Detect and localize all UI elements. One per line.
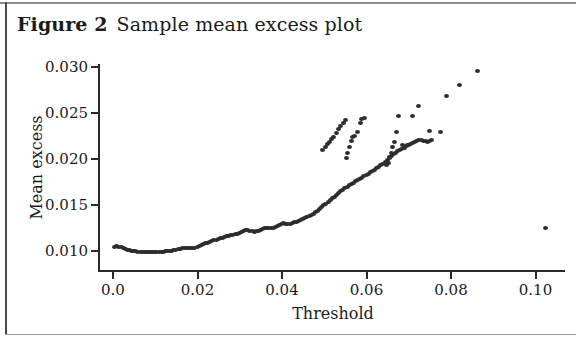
scatter-data-layer (0, 0, 576, 341)
data-point (362, 116, 367, 120)
figure-container: Figure 2Sample mean excess plot 0.0100.0… (0, 0, 576, 341)
data-point (392, 140, 397, 144)
data-point (343, 118, 348, 122)
data-point (389, 151, 394, 155)
plot-area: 0.0100.0150.0200.0250.030 0.00.020.040.0… (0, 0, 576, 341)
data-point (358, 121, 363, 125)
data-point (427, 129, 432, 133)
data-point (347, 145, 352, 149)
data-point (331, 135, 336, 139)
data-point (349, 139, 354, 143)
data-point (355, 130, 360, 134)
data-point (429, 138, 434, 142)
data-point (444, 94, 449, 98)
data-point (475, 69, 480, 73)
data-point (405, 143, 410, 147)
data-point (345, 151, 350, 155)
data-point (396, 114, 401, 118)
data-point (386, 161, 391, 165)
data-point (352, 134, 357, 138)
data-point (344, 156, 349, 160)
data-point (390, 145, 395, 149)
data-point (543, 226, 548, 230)
data-point (334, 131, 339, 135)
data-point (457, 83, 462, 87)
data-point (416, 104, 421, 108)
data-point (438, 130, 443, 134)
data-point (410, 114, 415, 118)
data-point (394, 130, 399, 134)
